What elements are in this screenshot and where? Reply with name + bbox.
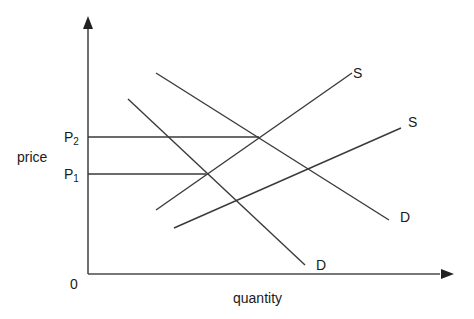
demand-curve-2 xyxy=(156,73,389,220)
supply-2-label: S xyxy=(408,114,417,130)
demand-2-label: D xyxy=(400,209,410,225)
supply-1-label: S xyxy=(353,65,362,81)
p1-label: P1 xyxy=(64,166,79,184)
p2-label: P2 xyxy=(64,129,79,147)
y-axis-label: price xyxy=(17,149,48,165)
demand-1-label: D xyxy=(316,257,326,273)
x-axis-arrow-icon xyxy=(441,269,454,279)
x-axis-label: quantity xyxy=(233,290,282,306)
y-axis-arrow-icon xyxy=(83,16,93,29)
supply-curve-2 xyxy=(174,128,401,228)
origin-label: 0 xyxy=(70,276,78,292)
supply-curve-1 xyxy=(156,73,352,210)
supply-demand-diagram: S S D D P2 P1 price quantity 0 xyxy=(0,0,474,319)
